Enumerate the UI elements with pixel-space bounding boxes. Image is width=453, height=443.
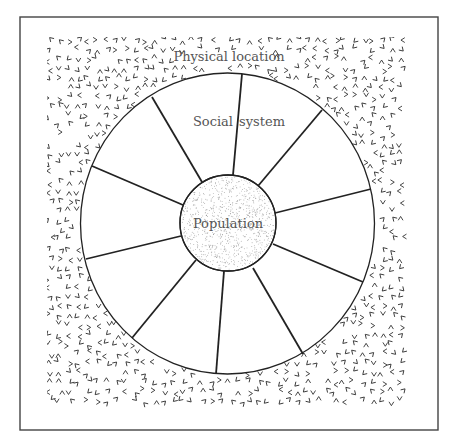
physical-location-label: Physical location [173, 49, 285, 64]
system-label: system [239, 114, 285, 129]
population-label: Population [193, 216, 264, 231]
diagram-canvas: Physical location Social system Populati… [0, 0, 453, 443]
social-label: Social [193, 114, 233, 129]
social-system-diagram: Physical location Social system Populati… [0, 0, 453, 443]
